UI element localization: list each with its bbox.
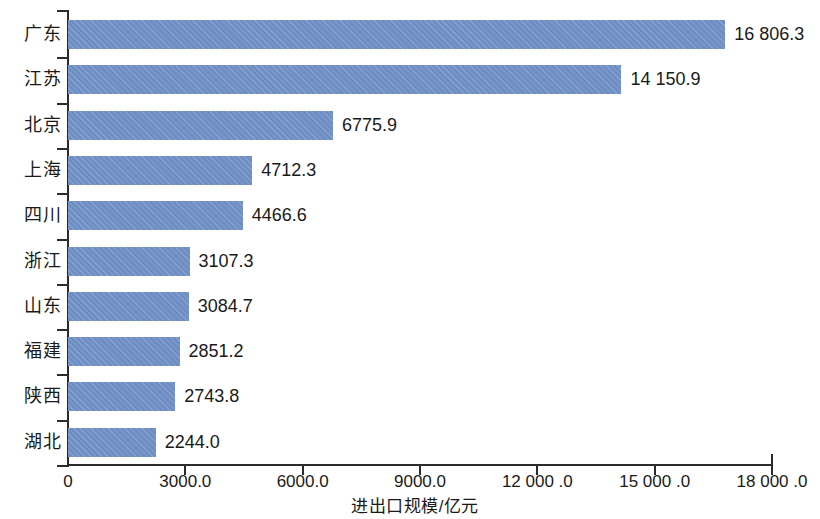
x-axis-tick-label: 15 000 .0 <box>619 472 690 492</box>
y-axis-tick <box>57 239 68 241</box>
bar <box>68 111 333 140</box>
bar-group: 2244.0 <box>68 420 772 465</box>
bar <box>68 247 190 276</box>
y-axis-tick <box>57 420 68 422</box>
y-axis-tick <box>57 193 68 195</box>
bar-group: 6775.9 <box>68 103 772 148</box>
bar <box>68 201 243 230</box>
bar-value-label: 4712.3 <box>261 156 316 185</box>
bar-value-label: 3107.3 <box>199 247 254 276</box>
bar-group: 2743.8 <box>68 374 772 419</box>
category-label: 四川 <box>24 201 62 230</box>
bar-group: 4466.6 <box>68 193 772 238</box>
bar <box>68 382 175 411</box>
y-axis-tick <box>57 329 68 331</box>
y-axis-tick <box>57 465 68 467</box>
x-axis-title-text: 进出口规模/亿元 <box>351 492 479 517</box>
y-axis-tick <box>57 103 68 105</box>
bar <box>68 337 180 366</box>
bar-value-label: 3084.7 <box>198 292 253 321</box>
bar <box>68 428 156 457</box>
bar-value-label: 6775.9 <box>342 111 397 140</box>
bar-value-label: 4466.6 <box>252 201 307 230</box>
y-axis-tick <box>57 374 68 376</box>
x-axis-tick-label: 6000.0 <box>277 472 329 492</box>
category-label: 广东 <box>24 20 62 49</box>
y-axis-top-cap-tick <box>57 10 68 12</box>
x-axis-tick-label: 3000.0 <box>159 472 211 492</box>
bar-value-label: 2743.8 <box>184 382 239 411</box>
bar <box>68 20 725 49</box>
bar-group: 2851.2 <box>68 329 772 374</box>
y-axis-tick <box>57 148 68 150</box>
bar <box>68 65 621 94</box>
bar-group: 4712.3 <box>68 148 772 193</box>
x-axis-tick-label: 12 000 .0 <box>502 472 573 492</box>
y-axis-tick <box>57 57 68 59</box>
category-label: 山东 <box>24 292 62 321</box>
category-label: 浙江 <box>24 247 62 276</box>
bar-chart: 广东江苏北京上海四川浙江山东福建陕西湖北 16 806.314 150.9677… <box>0 0 820 519</box>
x-axis-tick-label: 18 000 .0 <box>737 472 808 492</box>
category-label: 北京 <box>24 111 62 140</box>
category-label: 上海 <box>24 156 62 185</box>
bar <box>68 292 189 321</box>
bar-group: 16 806.3 <box>68 12 772 57</box>
category-label: 江苏 <box>24 65 62 94</box>
bar-value-label: 2244.0 <box>165 428 220 457</box>
x-axis-tick-label: 0 <box>63 472 72 492</box>
bar-value-label: 16 806.3 <box>734 20 804 49</box>
category-label: 湖北 <box>24 428 62 457</box>
plot-area: 16 806.314 150.96775.94712.34466.63107.3… <box>68 12 772 465</box>
bar-group: 14 150.9 <box>68 57 772 102</box>
bar-value-label: 14 150.9 <box>630 65 700 94</box>
bar-value-label: 2851.2 <box>189 337 244 366</box>
bar-group: 3107.3 <box>68 239 772 284</box>
category-label: 福建 <box>24 337 62 366</box>
y-axis-tick <box>57 284 68 286</box>
category-label: 陕西 <box>24 382 62 411</box>
bar <box>68 156 252 185</box>
bar-group: 3084.7 <box>68 284 772 329</box>
x-axis-title: 进出口规模/亿元 <box>0 492 820 517</box>
x-axis-tick-label: 9000.0 <box>394 472 446 492</box>
